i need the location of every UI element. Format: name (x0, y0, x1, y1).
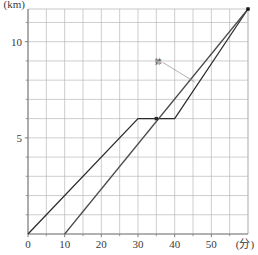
travel-time-distance-line-chart: 姉 01020304050510(分)(km) (0, 0, 258, 255)
x-tick-label: 30 (133, 238, 145, 250)
annotation-label-text: 姉 (155, 57, 162, 66)
x-tick-label: 10 (59, 238, 71, 250)
x-tick-label: 0 (25, 238, 31, 250)
y-tick-label: 5 (17, 132, 23, 144)
x-tick-label: 50 (206, 238, 218, 250)
y-tick-label: 10 (11, 36, 23, 48)
x-axis-unit-label: (分) (236, 238, 255, 251)
chart-page: 姉 01020304050510(分)(km) (0, 0, 258, 255)
x-tick-label: 20 (96, 238, 108, 250)
x-tick-label: 40 (169, 238, 181, 250)
marker-endpoint (246, 7, 249, 10)
y-axis-unit-label: (km) (4, 0, 26, 11)
marker-crossing-point (155, 117, 158, 120)
